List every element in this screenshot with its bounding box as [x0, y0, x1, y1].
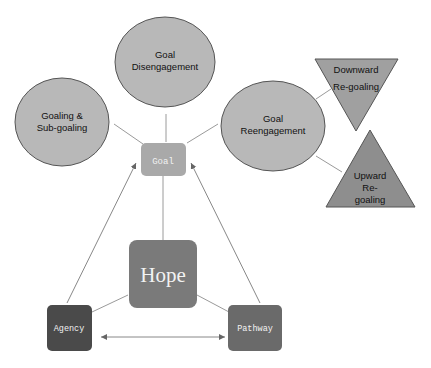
- box-goal: Goal: [141, 143, 186, 176]
- svg-text:Disengagement: Disengagement: [132, 61, 199, 72]
- ellipse-goal-disengagement: Goal Disengagement: [115, 17, 215, 107]
- ellipse-goaling-subgoaling: Goaling & Sub-goaling: [15, 78, 109, 166]
- svg-text:Downward: Downward: [334, 64, 379, 75]
- svg-text:Reengagement: Reengagement: [241, 125, 306, 136]
- triangle-downward-regoaling: Downward Re-goaling: [315, 59, 398, 131]
- svg-text:goaling: goaling: [355, 194, 386, 205]
- svg-text:Goal: Goal: [152, 157, 174, 167]
- box-hope: Hope: [129, 240, 197, 308]
- svg-text:Goal: Goal: [155, 49, 175, 60]
- svg-text:Re-: Re-: [362, 182, 377, 193]
- ellipse-goal-reengagement: Goal Reengagement: [221, 81, 325, 171]
- svg-text:Agency: Agency: [54, 324, 85, 334]
- triangle-upward-regoaling: Upward Re- goaling: [326, 130, 415, 207]
- svg-text:Upward: Upward: [354, 170, 387, 181]
- svg-text:Goaling &: Goaling &: [41, 110, 83, 121]
- hope-model-diagram: Goal Disengagement Goaling & Sub-goaling…: [0, 0, 431, 368]
- svg-text:Goal: Goal: [263, 113, 283, 124]
- svg-text:Re-goaling: Re-goaling: [333, 81, 379, 92]
- box-agency: Agency: [47, 305, 92, 351]
- svg-text:Sub-goaling: Sub-goaling: [37, 122, 88, 133]
- svg-text:Pathway: Pathway: [237, 324, 273, 334]
- svg-text:Hope: Hope: [140, 263, 186, 287]
- box-pathway: Pathway: [228, 305, 282, 351]
